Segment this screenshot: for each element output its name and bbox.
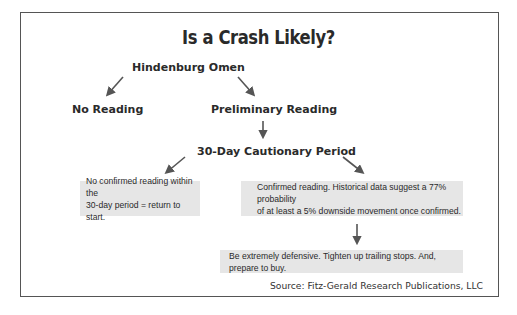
arrow-to-no-reading-icon <box>108 77 123 94</box>
arrow-to-no-confirmation-icon <box>167 157 185 172</box>
arrow-to-confirmed-icon <box>343 157 362 172</box>
arrows-layer <box>0 0 517 315</box>
arrow-to-preliminary-icon <box>238 77 253 94</box>
